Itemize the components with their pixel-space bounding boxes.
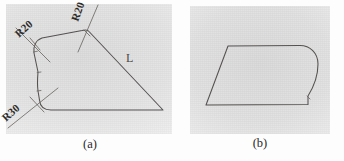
outline-path-b <box>206 46 318 106</box>
figure-page: R20 R20 R30 L (a) (b) <box>0 0 344 161</box>
figure-b-drawing <box>0 0 344 161</box>
caption-figure-b: (b) <box>232 136 288 151</box>
